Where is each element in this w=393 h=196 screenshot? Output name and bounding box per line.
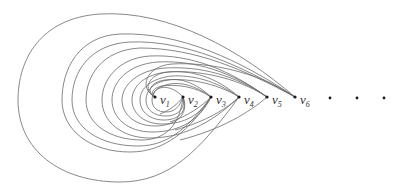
label-v5: v5	[272, 92, 282, 109]
label-v2: v2	[188, 92, 198, 109]
edge	[132, 72, 239, 124]
vertex-v6	[293, 95, 296, 98]
ellipsis-dot	[356, 97, 359, 100]
vertex-v3	[209, 95, 212, 98]
graph-diagram: v1 v2 v3 v4 v5 v6	[0, 0, 393, 196]
vertex-v1	[153, 95, 156, 98]
vertex-v2	[181, 95, 184, 98]
edge	[18, 14, 295, 182]
label-v6: v6	[300, 92, 310, 109]
label-v4: v4	[244, 92, 254, 109]
ellipsis-dot	[383, 97, 386, 100]
ellipsis	[329, 97, 386, 100]
edges	[18, 14, 295, 182]
edge	[154, 87, 183, 97]
label-v3: v3	[216, 92, 226, 109]
ellipsis-dot	[329, 97, 332, 100]
vertex-v4	[237, 95, 240, 98]
label-v1: v1	[160, 92, 170, 109]
vertex-v5	[265, 95, 268, 98]
